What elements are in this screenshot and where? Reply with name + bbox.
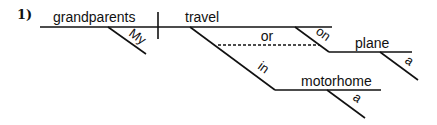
sentence-diagram: 1) grandparents travel or pla [0, 0, 437, 125]
plane-modifier-word: a [402, 52, 417, 69]
subject-word: grandparents [53, 9, 136, 25]
plane-word: plane [355, 35, 389, 51]
motorhome-modifier-word: a [350, 89, 365, 106]
diagram-canvas: grandparents travel or plane motorhome M… [0, 0, 437, 125]
preposition-in-word: in [255, 58, 272, 76]
motorhome-word: motorhome [301, 73, 372, 89]
subject-modifier-word: My [126, 25, 149, 48]
problem-number: 1) [17, 7, 32, 22]
verb-word: travel [185, 9, 219, 25]
conjunction-word: or [261, 28, 274, 44]
